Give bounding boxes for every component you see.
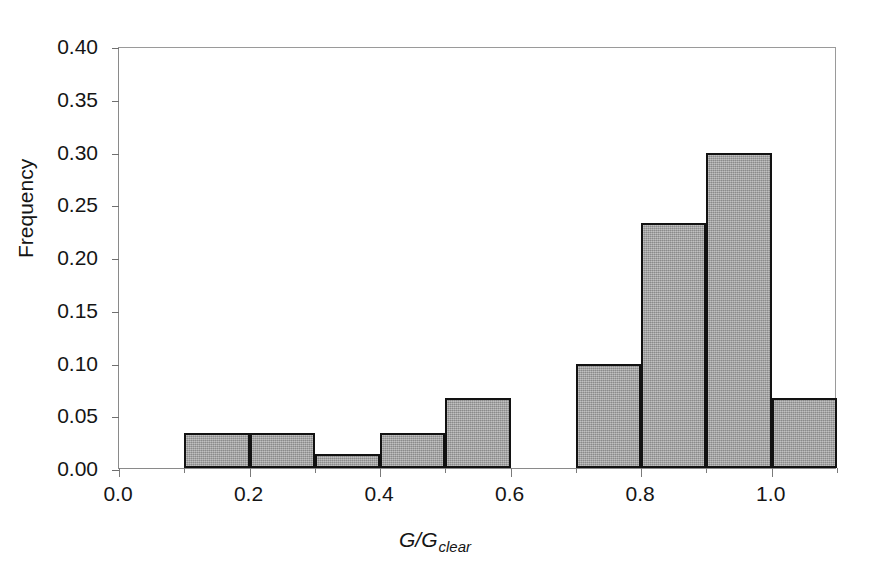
x-axis-minor-tick bbox=[445, 468, 446, 473]
x-axis-title-base: G/G bbox=[399, 528, 438, 551]
plot-area bbox=[118, 47, 836, 469]
y-axis-tick bbox=[112, 417, 119, 418]
y-axis-tick-label: 0.10 bbox=[57, 352, 98, 376]
x-axis-tick-label: 1.0 bbox=[756, 482, 785, 506]
bar bbox=[706, 153, 771, 468]
x-axis-tick-labels: 0.00.20.40.60.81.0 bbox=[118, 482, 836, 516]
y-axis-tick bbox=[112, 259, 119, 260]
y-axis-tick-label: 0.40 bbox=[57, 35, 98, 59]
bar-series bbox=[119, 48, 835, 468]
y-axis-tick bbox=[112, 365, 119, 366]
y-axis-tick-label: 0.35 bbox=[57, 88, 98, 112]
y-axis-tick bbox=[112, 470, 119, 471]
x-axis-tick bbox=[772, 468, 773, 477]
bar bbox=[772, 398, 837, 468]
y-axis-tick-labels: 0.000.050.100.150.200.250.300.350.40 bbox=[0, 47, 110, 469]
x-axis-tick bbox=[119, 468, 120, 477]
x-axis-title: G/Gclear bbox=[0, 528, 869, 552]
y-axis-tick bbox=[112, 312, 119, 313]
y-axis-tick bbox=[112, 101, 119, 102]
x-axis-minor-tick bbox=[706, 468, 707, 473]
x-axis-minor-tick bbox=[315, 468, 316, 473]
y-axis-tick-label: 0.25 bbox=[57, 193, 98, 217]
x-axis-tick bbox=[511, 468, 512, 477]
x-axis-tick-label: 0.0 bbox=[103, 482, 132, 506]
y-axis-tick-label: 0.05 bbox=[57, 404, 98, 428]
bar bbox=[576, 364, 641, 468]
y-axis-tick-label: 0.30 bbox=[57, 141, 98, 165]
y-axis-tick-label: 0.15 bbox=[57, 299, 98, 323]
bar bbox=[641, 223, 706, 468]
x-axis-tick bbox=[250, 468, 251, 477]
y-axis-title: Frequency bbox=[14, 159, 38, 258]
bar bbox=[184, 433, 249, 468]
x-axis-tick-label: 0.8 bbox=[626, 482, 655, 506]
bar bbox=[250, 433, 315, 468]
y-axis-tick bbox=[112, 154, 119, 155]
x-axis-tick-label: 0.2 bbox=[234, 482, 263, 506]
x-axis-tick-label: 0.6 bbox=[495, 482, 524, 506]
bar bbox=[315, 454, 380, 468]
x-axis-tick-label: 0.4 bbox=[364, 482, 393, 506]
bar bbox=[380, 433, 445, 468]
x-axis-minor-tick bbox=[184, 468, 185, 473]
y-axis-tick-label: 0.20 bbox=[57, 246, 98, 270]
x-axis-minor-tick bbox=[576, 468, 577, 473]
x-axis-tick bbox=[380, 468, 381, 477]
y-axis-tick-label: 0.00 bbox=[57, 457, 98, 481]
histogram-figure: 0.000.050.100.150.200.250.300.350.40 Fre… bbox=[0, 0, 869, 586]
y-axis-tick bbox=[112, 48, 119, 49]
y-axis-tick bbox=[112, 206, 119, 207]
x-axis-tick bbox=[641, 468, 642, 477]
bar bbox=[445, 398, 510, 468]
x-axis-title-subscript: clear bbox=[439, 538, 472, 555]
x-axis-minor-tick bbox=[837, 468, 838, 473]
